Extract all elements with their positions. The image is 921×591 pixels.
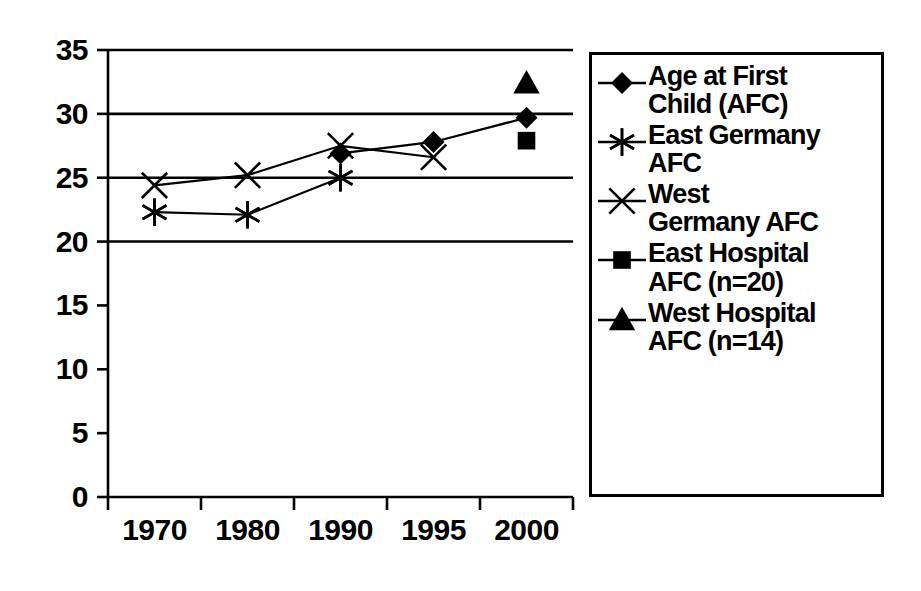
square-marker-icon [613,252,631,270]
x-tick-label: 1970 [122,515,187,545]
chart-figure: 05101520253035 19701980199019952000 Age … [0,0,921,591]
legend-item-label: East Germany AFC [648,120,820,177]
x-axis-ticks [108,497,573,510]
diamond-marker-icon [611,72,633,94]
square-marker-icon [596,240,648,280]
x-tick-label: 1990 [308,515,373,545]
square-marker-icon [518,132,536,150]
chart-legend: Age at First Child (AFC)East Germany AFC… [589,52,884,497]
x-tick-label: 1995 [401,515,466,545]
x-tick-label: 2000 [494,515,559,545]
legend-item-label: Age at First Child (AFC) [648,61,788,118]
diamond-marker-icon [596,63,648,103]
triangle-marker-icon [596,300,648,340]
legend-item[interactable]: East Germany AFC [592,120,881,177]
legend-item[interactable]: East Hospital AFC (n=20) [592,238,881,295]
series-markers [142,70,540,228]
cross-marker-icon [596,181,648,221]
triangle-marker-icon [513,70,539,93]
series-line [155,146,434,186]
gridlines [108,50,573,497]
legend-item-label: West Germany AFC [648,179,818,236]
legend-item[interactable]: West Hospital AFC (n=14) [592,298,881,355]
legend-item[interactable]: West Germany AFC [592,179,881,236]
legend-item-label: East Hospital AFC (n=20) [648,238,809,295]
asterisk-marker-icon [596,122,648,162]
legend-item-label: West Hospital AFC (n=14) [648,298,816,355]
axis-lines [97,50,573,497]
legend-item[interactable]: Age at First Child (AFC) [592,61,881,118]
diamond-marker-icon [516,107,538,129]
x-tick-label: 1980 [215,515,280,545]
x-axis-tick-labels: 19701980199019952000 [0,515,921,565]
triangle-marker-icon [609,306,635,329]
